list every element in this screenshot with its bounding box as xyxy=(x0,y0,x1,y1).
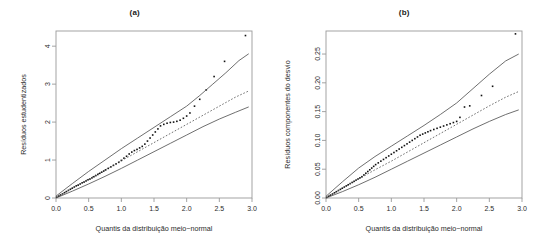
plot-frame xyxy=(326,31,522,198)
x-tick-label: 2.0 xyxy=(182,205,192,212)
x-tick-label: 1.0 xyxy=(116,205,126,212)
x-tick-label: 1.5 xyxy=(419,205,429,212)
x-axis-title: Quantis da distribuição meio−normal xyxy=(365,224,482,233)
plot-frame xyxy=(56,31,252,198)
series-line xyxy=(326,54,519,196)
x-tick-label: 2.5 xyxy=(484,205,494,212)
y-tick-label: 0.05 xyxy=(313,162,320,176)
y-tick-label: 0.00 xyxy=(313,191,320,205)
series-line xyxy=(56,54,249,196)
series-dotted-line xyxy=(56,91,249,197)
y-axis-title: Resíduos estudentizados xyxy=(19,74,28,155)
y-tick-label: 2 xyxy=(44,120,51,124)
series-dotted-line xyxy=(326,91,519,197)
data-points xyxy=(325,33,515,198)
x-tick-label: 0.0 xyxy=(321,205,331,212)
y-tick-label: 3 xyxy=(44,82,51,86)
data-points xyxy=(56,35,246,198)
x-tick-label: 3.0 xyxy=(247,205,257,212)
x-tick-label: 3.0 xyxy=(517,205,527,212)
y-axis-title: Resíduos componentes do desvio xyxy=(283,60,292,168)
x-axis-title: Quantis da distribuição meio−normal xyxy=(96,224,213,233)
y-tick-label: 0.15 xyxy=(313,105,320,119)
series-line xyxy=(326,110,519,198)
series-line xyxy=(56,107,249,198)
y-tick-label: 0.10 xyxy=(313,133,320,147)
x-tick-label: 2.5 xyxy=(214,205,224,212)
y-tick-label: 0 xyxy=(44,196,51,200)
x-tick-label: 1.5 xyxy=(149,205,159,212)
half-normal-plot-figure: (a) 0.00.51.01.52.02.53.001234Quantis da… xyxy=(0,0,539,251)
x-tick-label: 0.5 xyxy=(84,205,94,212)
y-tick-label: 0.25 xyxy=(313,47,320,61)
panel-b: (b) 0.00.51.01.52.02.53.00.000.050.100.1… xyxy=(270,0,539,251)
y-tick-label: 1 xyxy=(44,158,51,162)
panel-a-plot: 0.00.51.01.52.02.53.001234Quantis da dis… xyxy=(0,0,270,251)
panel-b-plot: 0.00.51.01.52.02.53.00.000.050.100.150.2… xyxy=(270,0,539,251)
x-tick-label: 2.0 xyxy=(451,205,461,212)
y-tick-label: 4 xyxy=(44,44,51,48)
x-tick-label: 0.0 xyxy=(51,205,61,212)
y-tick-label: 0.20 xyxy=(313,76,320,90)
x-tick-label: 0.5 xyxy=(353,205,363,212)
x-tick-label: 1.0 xyxy=(386,205,396,212)
panel-a: (a) 0.00.51.01.52.02.53.001234Quantis da… xyxy=(0,0,270,251)
